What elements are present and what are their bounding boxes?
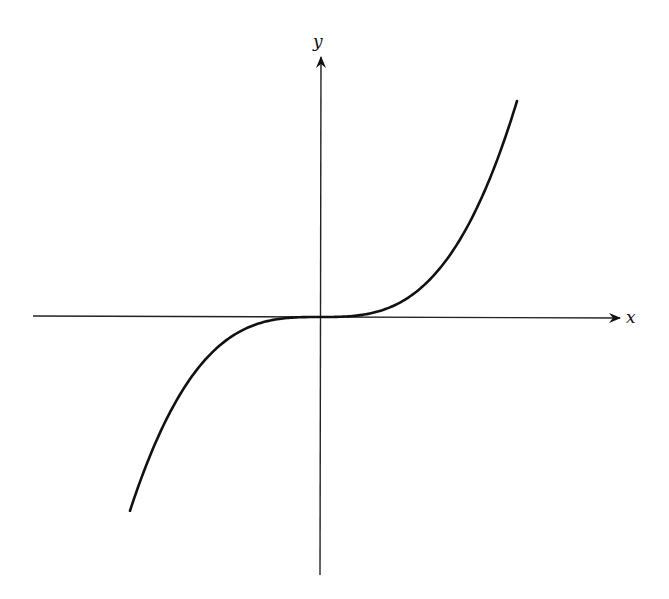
cubic-graph: y x (0, 0, 669, 599)
cubic-curve (130, 101, 517, 511)
x-axis-label: x (626, 307, 636, 327)
y-axis-label: y (312, 31, 323, 51)
